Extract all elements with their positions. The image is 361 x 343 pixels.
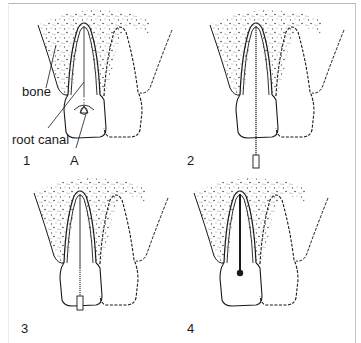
canal-seal: [237, 270, 243, 276]
panel-number-4: 4: [187, 322, 194, 335]
instrument-handle: [77, 296, 83, 310]
panel-number-2: 2: [187, 154, 194, 167]
panel-3: [34, 178, 168, 310]
label-root-canal: root canal: [12, 133, 69, 146]
label-bone: bone: [22, 85, 51, 98]
panel-number-3: 3: [21, 322, 28, 335]
panel-number-1: 1: [23, 154, 30, 167]
panel-4: [194, 178, 328, 306]
panel-1: [38, 10, 172, 148]
label-access-point: A: [70, 154, 79, 167]
instrument-handle: [253, 155, 259, 168]
panel-2: [210, 10, 344, 168]
